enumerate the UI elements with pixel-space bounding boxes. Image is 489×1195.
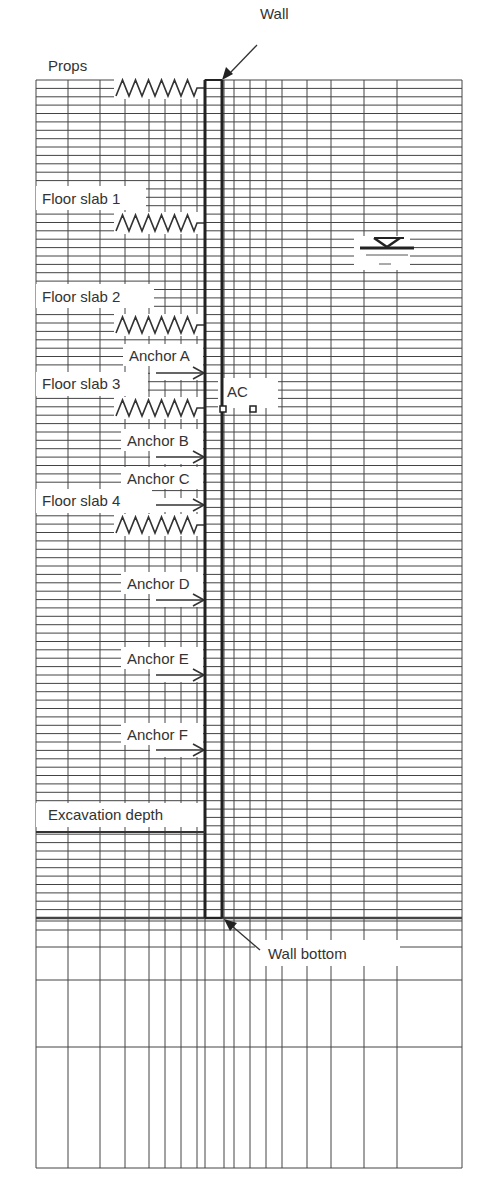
anchor-c-label: Anchor C — [125, 470, 192, 487]
floor-slab-3-label: Floor slab 3 — [40, 375, 122, 392]
wall-label: Wall — [258, 5, 291, 22]
props-label: Props — [46, 57, 89, 74]
floor-slab-2-label: Floor slab 2 — [40, 288, 122, 305]
anchor-b-label: Anchor B — [125, 432, 191, 449]
floor-slab-4-label: Floor slab 4 — [40, 492, 122, 509]
anchor-a-label: Anchor A — [127, 347, 192, 364]
fem-mesh-diagram — [0, 0, 489, 1195]
excavation-depth-label: Excavation depth — [46, 806, 165, 823]
anchor-f-label: Anchor F — [125, 726, 190, 743]
anchor-e-label: Anchor E — [125, 650, 191, 667]
ac-label: AC — [225, 383, 250, 400]
floor-slab-1-label: Floor slab 1 — [40, 190, 122, 207]
anchor-d-label: Anchor D — [125, 575, 192, 592]
wall-bottom-label: Wall bottom — [266, 945, 377, 962]
